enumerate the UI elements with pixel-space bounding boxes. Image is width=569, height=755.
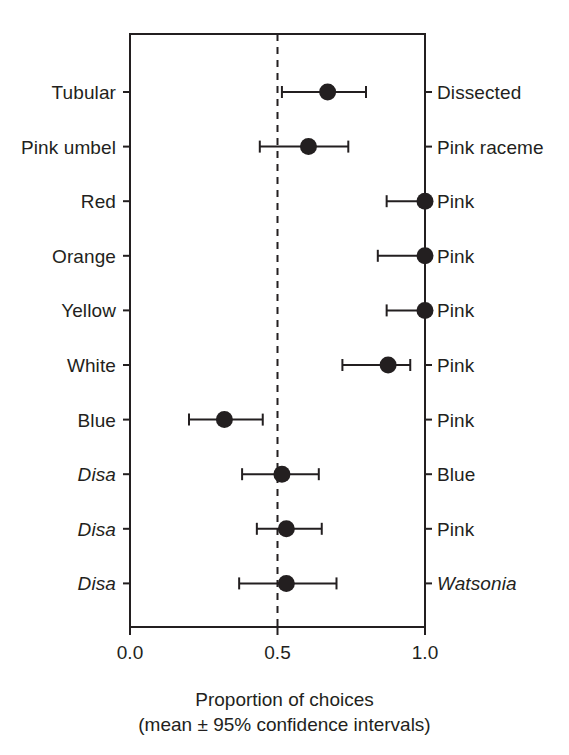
x-axis-title-line1: Proportion of choices: [0, 688, 569, 712]
left-label-row-2: Red: [0, 192, 116, 211]
x-tick-label-1: 0.5: [264, 643, 290, 662]
x-axis-title-line2: (mean ± 95% confidence intervals): [0, 713, 569, 737]
right-label-row-5: Pink: [437, 356, 474, 375]
plot-frame-rect: [130, 34, 425, 627]
data-row-1: [260, 138, 349, 155]
left-label-row-5: White: [0, 356, 116, 375]
data-point-9: [278, 575, 295, 592]
data-series: [189, 84, 434, 592]
data-row-9: [239, 575, 336, 592]
data-point-1: [300, 138, 317, 155]
right-label-row-1: Pink raceme: [437, 137, 544, 156]
data-point-0: [319, 84, 336, 101]
right-label-row-0: Dissected: [437, 83, 521, 102]
x-tick-label-0: 0.0: [117, 643, 143, 662]
right-label-row-4: Pink: [437, 301, 474, 320]
data-row-8: [257, 520, 322, 537]
data-point-3: [417, 247, 434, 264]
left-label-row-7: Disa: [0, 465, 116, 484]
data-point-8: [278, 520, 295, 537]
right-label-row-2: Pink: [437, 192, 474, 211]
data-point-7: [273, 466, 290, 483]
right-label-row-7: Blue: [437, 465, 475, 484]
data-row-2: [387, 193, 434, 210]
data-row-7: [242, 466, 319, 483]
data-row-0: [282, 84, 366, 101]
left-label-row-4: Yellow: [0, 301, 116, 320]
left-label-row-9: Disa: [0, 574, 116, 593]
data-point-4: [417, 302, 434, 319]
data-point-5: [380, 357, 397, 374]
data-point-2: [417, 193, 434, 210]
left-label-row-0: Tubular: [0, 83, 116, 102]
left-label-row-6: Blue: [0, 410, 116, 429]
right-label-row-3: Pink: [437, 246, 474, 265]
data-row-3: [378, 247, 434, 264]
x-tick-label-2: 1.0: [412, 643, 438, 662]
data-point-6: [216, 411, 233, 428]
forest-plot-figure: TubularPink umbelRedOrangeYellowWhiteBlu…: [0, 0, 569, 755]
data-row-4: [387, 302, 434, 319]
data-row-5: [342, 357, 410, 374]
left-label-row-8: Disa: [0, 519, 116, 538]
right-label-row-6: Pink: [437, 410, 474, 429]
right-label-row-9: Watsonia: [437, 574, 517, 593]
plot-frame: [130, 34, 425, 627]
right-label-row-8: Pink: [437, 519, 474, 538]
left-label-row-3: Orange: [0, 246, 116, 265]
left-label-row-1: Pink umbel: [0, 137, 116, 156]
data-row-6: [189, 411, 263, 428]
